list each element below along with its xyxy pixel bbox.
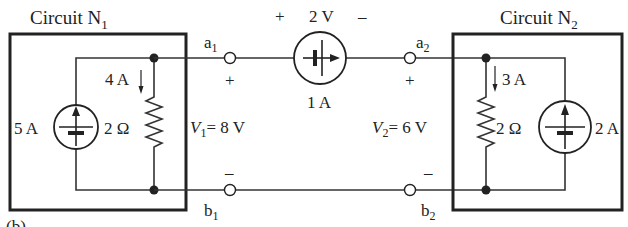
- arrow-down-icon: [139, 70, 144, 94]
- v1-label: V1= 8 V: [190, 118, 246, 140]
- circuit-n2-title: Circuit N2: [500, 7, 578, 32]
- terminal-b2-label: b2: [421, 201, 436, 223]
- middle-source-plus: +: [275, 7, 285, 26]
- circuit-n2: Circuit N2 2 Ω 2 A 3 A: [453, 7, 622, 210]
- terminal-b1: [225, 185, 236, 196]
- current-n2-label: 3 A: [502, 70, 527, 89]
- terminal-b1-label: b1: [204, 201, 219, 223]
- middle-source-current: 1 A: [307, 93, 332, 112]
- circuit-diagram: Circuit N1 5 A 2 Ω 4 A: [0, 0, 628, 227]
- resistor-n2-label: 2 Ω: [496, 119, 521, 138]
- v2-label: V2= 6 V: [372, 118, 428, 140]
- wire: [486, 153, 565, 190]
- resistor-n2: [478, 58, 494, 190]
- v2-plus: +: [405, 71, 415, 90]
- middle-source: + 2 V – 1 A: [275, 7, 367, 112]
- current-n1-label: 4 A: [105, 70, 130, 89]
- circuit-n1-title: Circuit N1: [30, 7, 108, 32]
- circuit-n1: Circuit N1 5 A 2 Ω 4 A: [10, 7, 186, 210]
- terminal-a1-label: a1: [204, 33, 218, 55]
- terminal-a2-label: a2: [416, 33, 430, 55]
- terminal-a1: [225, 53, 236, 64]
- v1-plus: +: [225, 71, 235, 90]
- v2-minus: –: [423, 163, 433, 182]
- resistor-n1-label: 2 Ω: [104, 119, 129, 138]
- node-dot: [482, 54, 491, 63]
- current-source-right-icon: [294, 32, 346, 84]
- current-source-n1-icon: [54, 105, 98, 149]
- wire: [76, 149, 154, 190]
- middle-source-minus: –: [357, 7, 367, 26]
- figure-label: (b): [6, 217, 26, 227]
- arrow-down-icon: [493, 66, 498, 92]
- resistor-n1: [146, 58, 162, 190]
- terminal-b2: [405, 185, 416, 196]
- terminal-a2: [405, 53, 416, 64]
- middle-source-voltage: 2 V: [309, 7, 334, 26]
- node-dot: [482, 186, 491, 195]
- v1-minus: –: [224, 163, 234, 182]
- source-n2-label: 2 A: [595, 119, 620, 138]
- source-n1-label: 5 A: [14, 119, 39, 138]
- current-source-n2-icon: [539, 101, 591, 153]
